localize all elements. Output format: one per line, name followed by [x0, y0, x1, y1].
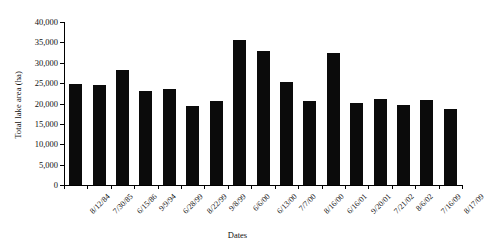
- bar: [139, 91, 152, 185]
- x-tick-label: 9/8/99: [227, 192, 248, 213]
- y-tick-label: 10,000: [35, 139, 58, 149]
- y-tick-label: 40,000: [35, 17, 58, 27]
- x-tick: [439, 185, 440, 189]
- x-tick: [64, 185, 65, 189]
- x-tick-label: 6/28/99: [182, 192, 206, 216]
- x-tick: [298, 185, 299, 189]
- x-tick: [345, 185, 346, 189]
- x-tick-label: 8/22/99: [205, 192, 229, 216]
- x-axis-line: [64, 185, 462, 186]
- bar: [327, 53, 340, 185]
- bar: [186, 106, 199, 185]
- y-tick-label: 0: [54, 180, 58, 190]
- x-axis-title: Dates: [0, 230, 475, 240]
- y-tick-label: 25,000: [35, 78, 58, 88]
- y-tick-label: 15,000: [35, 119, 58, 129]
- bar: [257, 51, 270, 185]
- x-tick-label: 8/17/09: [462, 192, 486, 216]
- bar: [69, 84, 82, 185]
- bar: [350, 103, 363, 185]
- y-axis-title: Total lake area (ha): [13, 35, 23, 175]
- x-tick: [462, 185, 463, 189]
- x-tick-label: 6/6/00: [251, 192, 272, 213]
- y-tick-label: 5,000: [39, 160, 58, 170]
- y-tick-label: 35,000: [35, 37, 58, 47]
- x-tick-label: 6/15/86: [135, 192, 159, 216]
- bar: [420, 100, 433, 185]
- x-tick: [228, 185, 229, 189]
- y-tick-label: 30,000: [35, 58, 58, 68]
- x-tick: [181, 185, 182, 189]
- x-tick: [322, 185, 323, 189]
- bar: [303, 101, 316, 185]
- bar: [397, 105, 410, 185]
- x-tick: [87, 185, 88, 189]
- x-tick-label: 8/6/02: [414, 192, 435, 213]
- bar: [210, 101, 223, 185]
- x-tick: [415, 185, 416, 189]
- y-tick-label: 20,000: [35, 99, 58, 109]
- x-tick-label: 7/7/00: [297, 192, 318, 213]
- bar-series: [64, 22, 462, 185]
- bar: [116, 70, 129, 185]
- x-tick: [158, 185, 159, 189]
- x-tick: [251, 185, 252, 189]
- x-tick: [204, 185, 205, 189]
- bar: [280, 82, 293, 186]
- x-tick-label: 8/16/00: [322, 192, 346, 216]
- x-tick-label: 8/12/84: [88, 192, 112, 216]
- x-tick-label: 9/9/94: [157, 192, 178, 213]
- bar: [93, 85, 106, 185]
- bar: [444, 109, 457, 185]
- x-tick-label: 7/16/09: [439, 192, 463, 216]
- plot-area: 05,00010,00015,00020,00025,00030,00035,0…: [64, 22, 462, 185]
- bar: [163, 89, 176, 185]
- x-tick: [111, 185, 112, 189]
- x-tick: [134, 185, 135, 189]
- x-tick: [275, 185, 276, 189]
- x-tick-label: 9/20/01: [369, 192, 393, 216]
- x-tick: [392, 185, 393, 189]
- x-tick: [368, 185, 369, 189]
- bar: [233, 40, 246, 185]
- x-tick-label: 7/30/85: [111, 192, 135, 216]
- x-tick-label: 7/21/02: [392, 192, 416, 216]
- x-tick-label: 6/13/00: [275, 192, 299, 216]
- bar: [374, 99, 387, 185]
- x-tick-label: 6/16/01: [345, 192, 369, 216]
